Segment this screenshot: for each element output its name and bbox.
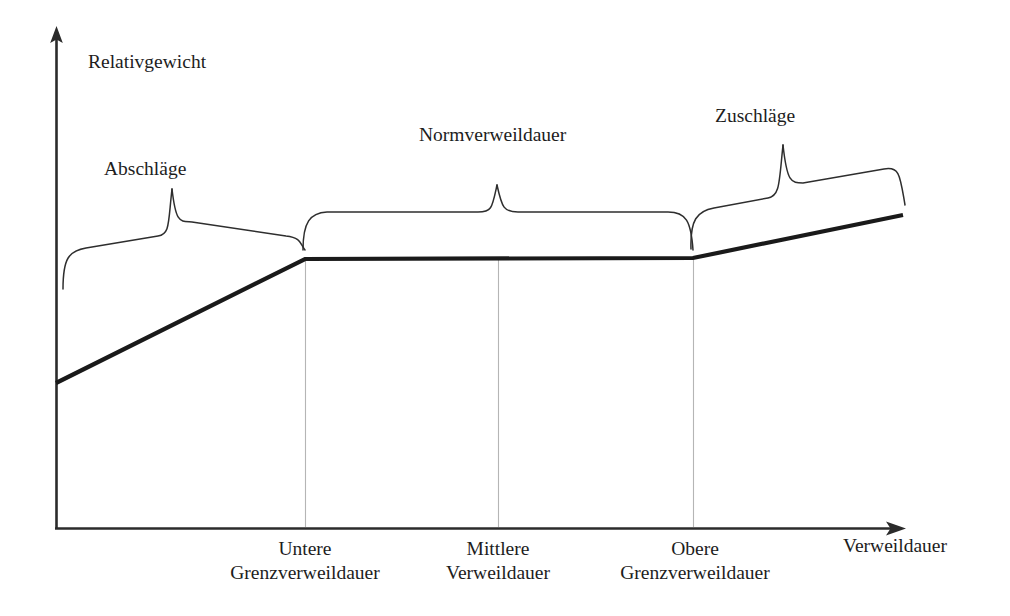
x-tick-label-obere: Obere Grenzverweildauer bbox=[545, 537, 845, 586]
axis-group bbox=[50, 26, 906, 536]
x-tick-label-obere-line2: Grenzverweildauer bbox=[545, 561, 845, 585]
chart-figure: Relativgewicht Verweildauer Abschläge No… bbox=[0, 0, 1010, 616]
brace-label-abschlaege: Abschläge bbox=[104, 157, 186, 181]
x-tick-label-obere-line1: Obere bbox=[545, 537, 845, 561]
data-curve-group bbox=[56, 215, 903, 383]
chart-svg bbox=[0, 0, 1010, 616]
relativgewicht-curve bbox=[56, 215, 903, 383]
brace-normverweildauer bbox=[303, 185, 693, 250]
brace-abschlaege bbox=[63, 189, 305, 289]
brace-label-zuschlaege: Zuschläge bbox=[715, 104, 795, 128]
y-axis-label: Relativgewicht bbox=[88, 50, 206, 74]
dropline-group bbox=[306, 259, 694, 527]
brace-label-normverweildauer: Normverweildauer bbox=[419, 123, 566, 147]
brace-zuschlaege bbox=[691, 145, 905, 249]
x-axis-label: Verweildauer bbox=[843, 534, 947, 558]
